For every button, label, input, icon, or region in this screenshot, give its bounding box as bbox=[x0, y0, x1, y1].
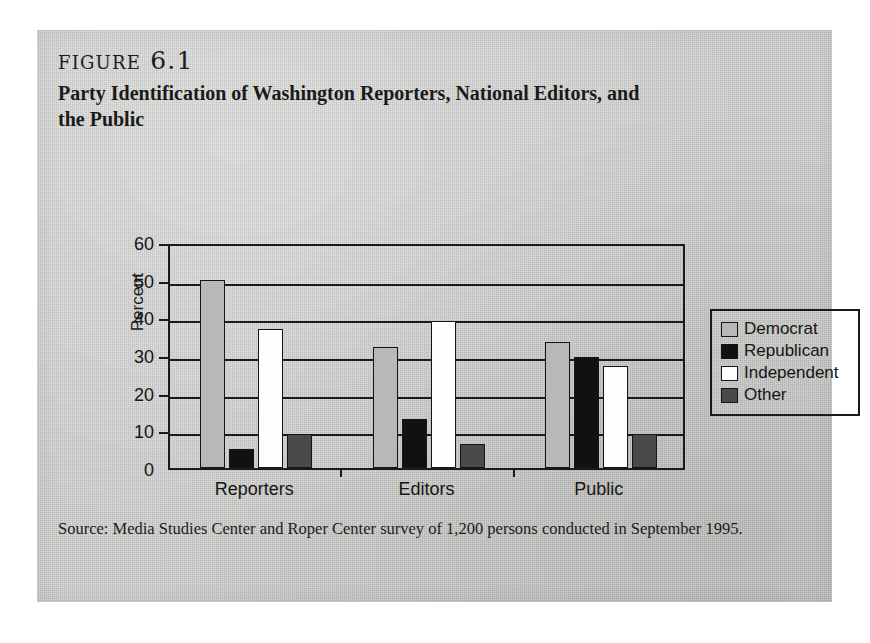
figure-number: figure 6.1 bbox=[58, 46, 194, 75]
bar bbox=[545, 342, 570, 468]
legend-item-label: Republican bbox=[744, 341, 829, 361]
bar bbox=[402, 419, 427, 468]
y-axis-tick-mark bbox=[159, 432, 168, 434]
source-note: Source: Media Studies Center and Roper C… bbox=[58, 517, 758, 540]
y-axis-tick-label: 0 bbox=[118, 460, 154, 481]
legend-item: Republican bbox=[721, 340, 849, 362]
bar bbox=[574, 357, 599, 468]
legend-swatch-icon bbox=[721, 388, 738, 403]
x-axis-group-label: Reporters bbox=[168, 479, 340, 500]
y-axis-tick-mark bbox=[159, 244, 168, 246]
legend-item: Democrat bbox=[721, 318, 849, 340]
legend-swatch-icon bbox=[721, 322, 738, 337]
y-axis-tick-mark bbox=[159, 282, 168, 284]
y-axis-title: Percent bbox=[128, 242, 148, 362]
legend-item: Independent bbox=[721, 362, 849, 384]
x-axis-group-label: Public bbox=[513, 479, 685, 500]
x-axis-group-label: Editors bbox=[340, 479, 512, 500]
bar bbox=[603, 366, 628, 468]
legend-item: Other bbox=[721, 384, 849, 406]
y-axis-tick-label: 60 bbox=[118, 234, 154, 255]
bar bbox=[632, 434, 657, 468]
bar bbox=[373, 347, 398, 468]
y-axis-tick-label: 20 bbox=[118, 384, 154, 405]
x-axis-group-separator bbox=[513, 470, 515, 477]
bars-layer bbox=[170, 246, 683, 468]
legend-swatch-icon bbox=[721, 366, 738, 381]
y-axis-tick-label: 40 bbox=[118, 309, 154, 330]
bar-chart: Percent 0102030405060 ReportersEditorsPu… bbox=[82, 200, 822, 510]
legend-swatch-icon bbox=[721, 344, 738, 359]
bar bbox=[258, 329, 283, 468]
plot-frame bbox=[168, 244, 685, 470]
y-axis-tick-label: 30 bbox=[118, 347, 154, 368]
y-axis-tick-mark bbox=[159, 395, 168, 397]
bar bbox=[287, 434, 312, 468]
y-axis-tick-label: 10 bbox=[118, 422, 154, 443]
x-axis-group-separator bbox=[340, 470, 342, 477]
chart-legend: DemocratRepublicanIndependentOther bbox=[710, 309, 860, 416]
figure-caption: Party Identification of Washington Repor… bbox=[58, 80, 658, 132]
y-axis-tick-mark bbox=[159, 357, 168, 359]
legend-item-label: Other bbox=[744, 385, 787, 405]
bar bbox=[431, 321, 456, 468]
bar bbox=[460, 444, 485, 468]
y-axis-tick-label: 50 bbox=[118, 271, 154, 292]
legend-item-label: Independent bbox=[744, 363, 839, 383]
y-axis-tick-mark bbox=[159, 319, 168, 321]
bar bbox=[200, 280, 225, 468]
bar bbox=[229, 449, 254, 468]
legend-item-label: Democrat bbox=[744, 319, 818, 339]
figure-panel: figure 6.1 Party Identification of Washi… bbox=[37, 30, 832, 602]
